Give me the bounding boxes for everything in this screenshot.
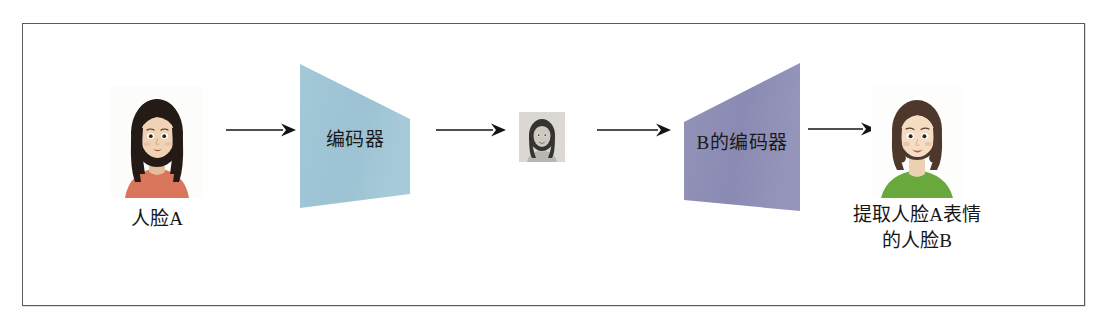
decoder-b-shape: B的编码器	[681, 60, 803, 215]
arrow-encoder-to-latent	[435, 121, 507, 139]
face-a-caption: 人脸A	[97, 206, 217, 232]
figure-root: 人脸A 编码器	[0, 0, 1112, 329]
encoder-label: 编码器	[326, 129, 385, 150]
encoder-shape: 编码器	[297, 60, 413, 212]
face-b-caption-line1: 提取人脸A表情	[831, 202, 1003, 228]
face-b-caption-line2: 的人脸B	[831, 228, 1003, 254]
latent-face-thumbnail	[519, 112, 565, 162]
decoder-b-label-wrap: B的编码器	[681, 127, 803, 154]
face-a-photo	[111, 86, 203, 198]
face-b-caption: 提取人脸A表情 的人脸B	[831, 202, 1003, 254]
face-b-illustration	[871, 86, 963, 198]
latent-face-illustration	[519, 112, 565, 162]
decoder-b-label: B的编码器	[696, 132, 787, 153]
arrow-face-a-to-encoder	[225, 121, 297, 139]
face-a-illustration	[111, 86, 203, 198]
face-a-caption-text: 人脸A	[131, 208, 183, 229]
arrow-latent-to-decoder	[596, 121, 672, 139]
encoder-label-wrap: 编码器	[297, 124, 413, 151]
diagram-frame: 人脸A 编码器	[22, 23, 1085, 306]
face-b-photo	[871, 86, 963, 198]
arrow-decoder-to-face-b	[807, 120, 877, 138]
